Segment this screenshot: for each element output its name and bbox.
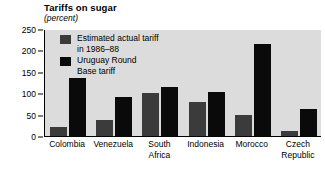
bar-group: [276, 30, 322, 136]
legend-swatch-actual: [60, 35, 71, 44]
y-axis-tick-label: 200: [22, 46, 36, 56]
y-axis-tick-label: 0: [31, 132, 36, 142]
legend-label: Estimated actual tariff in 1986–88: [77, 33, 220, 54]
bar-uruguay-round: [69, 78, 86, 136]
page-title: Tariffs on sugar: [44, 2, 304, 13]
y-axis-tick-mark: [38, 72, 43, 73]
bar-uruguay-round: [254, 44, 271, 136]
y-axis-tick-label: 250: [22, 25, 36, 35]
bar-actual-tariff: [235, 115, 252, 136]
y-axis-tick-label: 100: [22, 89, 36, 99]
x-axis-label: Colombia: [44, 139, 90, 150]
chart-legend: Estimated actual tariff in 1986–88Urugua…: [60, 33, 220, 77]
bar-actual-tariff: [50, 127, 67, 136]
y-axis-tick-label: 50: [27, 111, 36, 121]
bar-actual-tariff: [281, 131, 298, 136]
title-block: Tariffs on sugar (percent): [44, 2, 304, 24]
y-axis-tick-label: 150: [22, 68, 36, 78]
legend-item: Estimated actual tariff in 1986–88: [60, 33, 220, 54]
bar-uruguay-round: [115, 97, 132, 136]
y-axis-tick-mark: [38, 30, 43, 31]
x-axis-label: Morocco: [229, 139, 275, 150]
bar-uruguay-round: [300, 109, 317, 136]
y-axis-tick-mark: [38, 137, 43, 138]
legend-swatch-uruguay: [60, 57, 71, 66]
bar-actual-tariff: [96, 120, 113, 136]
chart-subtitle: (percent): [44, 13, 304, 24]
y-axis: 050100150200250: [0, 30, 44, 138]
chart-figure: Tariffs on sugar (percent) 0501001502002…: [0, 0, 325, 169]
bar-uruguay-round: [208, 92, 225, 136]
y-axis-tick-mark: [38, 115, 43, 116]
y-axis-tick-mark: [38, 94, 43, 95]
x-axis-label: South Africa: [136, 139, 182, 160]
y-axis-tick-mark: [38, 51, 43, 52]
bar-actual-tariff: [142, 93, 159, 136]
x-axis-label: Czech Republic: [275, 139, 321, 160]
bar-uruguay-round: [161, 87, 178, 136]
x-axis-label: Venezuela: [90, 139, 136, 150]
legend-label: Uruguay Round Base tariff: [77, 55, 220, 76]
x-axis-labels: ColombiaVenezuelaSouth AfricaIndonesiaMo…: [44, 139, 321, 169]
legend-item: Uruguay Round Base tariff: [60, 55, 220, 76]
bar-actual-tariff: [189, 102, 206, 136]
x-axis-label: Indonesia: [183, 139, 229, 150]
bar-group: [230, 30, 276, 136]
